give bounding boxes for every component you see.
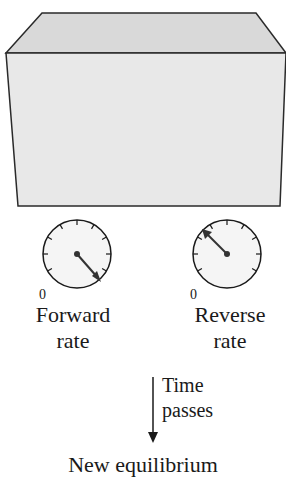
new-equilibrium-caption: New equilibrium	[0, 452, 286, 478]
forward-rate-label: Forward rate	[18, 302, 128, 354]
forward-zero-label: 0	[39, 287, 46, 303]
box-front-face	[6, 53, 286, 206]
reverse-rate-gauge	[193, 220, 261, 288]
forward-rate-gauge	[43, 220, 111, 288]
reverse-label-line2: rate	[175, 328, 285, 354]
box-top-face	[6, 13, 286, 53]
forward-label-line1: Forward	[18, 302, 128, 328]
diagram-canvas	[0, 0, 286, 481]
time-arrow-icon	[148, 377, 158, 443]
reverse-zero-label: 0	[190, 287, 197, 303]
reverse-rate-label: Reverse rate	[175, 302, 285, 354]
time-passes-label: Time passes	[162, 373, 213, 423]
time-label-line2: passes	[162, 398, 213, 423]
reverse-label-line1: Reverse	[175, 302, 285, 328]
time-label-line1: Time	[162, 373, 213, 398]
forward-label-line2: rate	[18, 328, 128, 354]
